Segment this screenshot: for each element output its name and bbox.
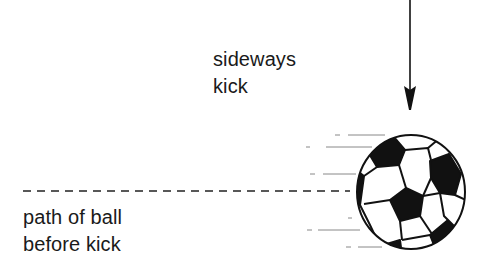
diagram-canvas xyxy=(0,0,477,277)
down-arrow-icon xyxy=(404,0,416,110)
